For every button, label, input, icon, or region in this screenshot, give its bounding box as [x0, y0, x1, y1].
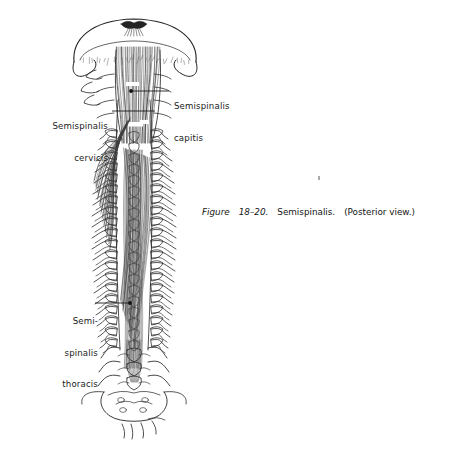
callout-line-2: cervicis — [18, 153, 108, 164]
callout-line-1: Semi- — [18, 316, 98, 327]
callout-line-1: Semispinalis — [18, 121, 108, 132]
caption-view-note: (Posterior — [344, 207, 386, 217]
callout-semispinalis-cervicis: Semispinalis cervicis — [18, 100, 108, 184]
callout-line-2: spinalis — [18, 348, 98, 359]
callout-semispinalis-thoracis: Semi- spinalis thoracis — [18, 295, 98, 411]
callout-semispinalis-capitis: Semispinalis capitis — [174, 80, 230, 164]
semispinalis-fibers-group — [94, 47, 161, 382]
figure-semispinalis: Semispinalis capitis Semispinalis cervic… — [0, 0, 464, 457]
callout-line-1: Semispinalis — [174, 101, 230, 112]
figure-caption: Figure18–20.Semispinalis.(Posterior view… — [202, 206, 444, 218]
caption-view-note-2: view.) — [389, 207, 415, 217]
scan-speck-artifact — [318, 176, 320, 180]
caption-figure-number: 18–20. — [239, 207, 269, 217]
callout-line-2: capitis — [174, 133, 230, 144]
caption-title: Semispinalis. — [277, 207, 335, 217]
caption-figure-word: Figure — [202, 207, 230, 217]
callout-line-3: thoracis — [18, 379, 98, 390]
